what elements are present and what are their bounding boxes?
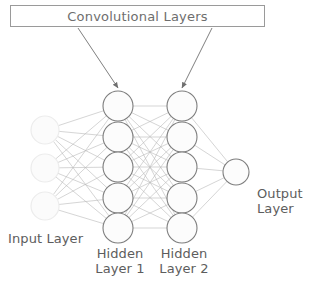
network-node (31, 192, 59, 220)
connection-line (192, 181, 227, 217)
convolutional-layers-label: Convolutional Layers (67, 10, 207, 23)
connection-line (59, 131, 103, 135)
network-node (167, 213, 197, 243)
connection-line (55, 147, 107, 196)
network-node (31, 154, 59, 182)
connection-line (57, 174, 104, 199)
network-node (167, 122, 197, 152)
network-node (223, 159, 249, 185)
connection-line (196, 178, 225, 192)
network-node (103, 213, 133, 243)
network-node (167, 152, 197, 182)
network-node (167, 183, 197, 213)
network-node (31, 116, 59, 144)
connection-line (195, 145, 226, 165)
network-node (103, 91, 133, 121)
annotation-arrow (182, 28, 212, 88)
network-node (103, 183, 133, 213)
connection-line (58, 173, 104, 192)
hidden-layer-2-label: Hidden Layer 2 (154, 246, 214, 276)
network-node (103, 122, 133, 152)
network-node (103, 152, 133, 182)
connection-line (59, 200, 103, 205)
connection-edges (53, 106, 228, 228)
neural-network-diagram: Convolutional Layers Input Layer Hidden … (0, 0, 317, 291)
output-layer-label: Output Layer (257, 186, 317, 216)
input-layer-label: Input Layer (8, 231, 83, 246)
hidden-layer-1-label: Hidden Layer 1 (90, 246, 150, 276)
connection-line (55, 140, 107, 188)
connection-line (197, 168, 223, 170)
convolutional-layers-annotation-box: Convolutional Layers (10, 5, 265, 27)
connection-line (58, 143, 104, 163)
annotation-arrow (78, 28, 118, 88)
connection-line (58, 111, 103, 126)
connection-line (58, 210, 103, 224)
annotation-arrows (78, 28, 212, 88)
connection-line (59, 167, 103, 168)
network-node (167, 91, 197, 121)
connection-line (53, 118, 109, 195)
